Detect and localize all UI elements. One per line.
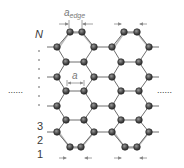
atom xyxy=(67,29,74,36)
nanoribbon-diagram: aedge a N 3 2 1 xyxy=(0,0,184,168)
atom xyxy=(54,74,61,81)
atom xyxy=(121,29,128,36)
atom xyxy=(81,59,88,66)
row-label-1: 1 xyxy=(37,148,43,160)
atom xyxy=(146,129,153,136)
atom xyxy=(79,29,86,36)
atom xyxy=(91,129,98,136)
atom xyxy=(134,29,141,36)
atom xyxy=(63,59,70,66)
atom xyxy=(81,88,88,95)
a-edge-label: aedge xyxy=(64,7,85,20)
atom xyxy=(91,74,98,81)
vertical-ellipsis xyxy=(38,50,40,106)
atom xyxy=(91,103,98,110)
atom xyxy=(146,103,153,110)
atom xyxy=(136,88,143,95)
row-labels: N 3 2 1 xyxy=(35,28,43,160)
top-right-arrows xyxy=(114,22,147,26)
atom xyxy=(109,44,116,51)
atom xyxy=(122,144,129,151)
row-label-2: 2 xyxy=(37,134,43,146)
row-label-n: N xyxy=(35,28,43,40)
atom xyxy=(109,74,116,81)
a-label: a xyxy=(72,70,78,81)
atom xyxy=(54,44,61,51)
right-continuation: ...... xyxy=(157,85,172,95)
bottom-arrows xyxy=(59,156,147,160)
atom xyxy=(67,144,74,151)
atom xyxy=(81,117,88,124)
a-edge-dimension xyxy=(59,20,93,28)
atom xyxy=(63,117,70,124)
atom xyxy=(146,44,153,51)
atom xyxy=(109,103,116,110)
atom xyxy=(118,117,125,124)
atom xyxy=(91,44,98,51)
atom xyxy=(54,103,61,110)
left-continuation: ...... xyxy=(8,85,23,95)
atom xyxy=(78,144,85,151)
atom xyxy=(118,88,125,95)
atom xyxy=(136,117,143,124)
atom xyxy=(134,144,141,151)
atom xyxy=(136,59,143,66)
atom xyxy=(109,129,116,136)
atom xyxy=(63,88,70,95)
atom xyxy=(146,74,153,81)
atom xyxy=(54,129,61,136)
atom xyxy=(118,59,125,66)
row-label-3: 3 xyxy=(37,120,43,132)
